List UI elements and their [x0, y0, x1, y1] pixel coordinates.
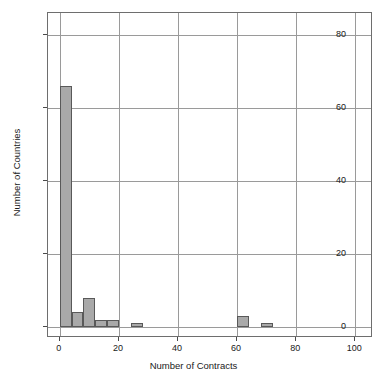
y-tick-label: 20	[336, 248, 346, 258]
gridline-vertical	[237, 13, 238, 336]
y-tick-mark	[43, 34, 47, 35]
histogram-bar	[237, 316, 249, 327]
histogram-bar	[60, 86, 72, 327]
x-tick-mark	[295, 337, 296, 341]
gridline-vertical	[119, 13, 120, 336]
x-tick-label: 40	[157, 343, 197, 353]
histogram-bar	[261, 323, 273, 327]
gridline-vertical	[296, 13, 297, 336]
y-tick-mark	[43, 326, 47, 327]
gridline-vertical	[355, 13, 356, 336]
x-tick-label: 100	[334, 343, 374, 353]
x-tick-mark	[59, 337, 60, 341]
x-tick-label: 60	[216, 343, 256, 353]
gridline-horizontal	[48, 108, 371, 109]
histogram-bar	[95, 320, 107, 327]
histogram-bar	[131, 323, 143, 327]
y-tick-mark	[43, 107, 47, 108]
gridline-horizontal	[48, 254, 371, 255]
y-tick-label: 40	[336, 175, 346, 185]
gridline-vertical	[178, 13, 179, 336]
x-axis-title: Number of Contracts	[0, 360, 387, 371]
x-tick-mark	[177, 337, 178, 341]
histogram-bar	[72, 312, 84, 327]
x-tick-label: 0	[39, 343, 79, 353]
gridline-horizontal	[48, 327, 371, 328]
y-tick-mark	[43, 253, 47, 254]
y-tick-mark	[43, 180, 47, 181]
x-tick-mark	[236, 337, 237, 341]
x-tick-mark	[118, 337, 119, 341]
plot-frame	[47, 12, 372, 337]
x-tick-label: 20	[98, 343, 138, 353]
x-tick-mark	[354, 337, 355, 341]
gridline-horizontal	[48, 181, 371, 182]
histogram-figure: 020406080100020406080 Number of Contract…	[0, 0, 387, 383]
histogram-bar	[107, 320, 119, 327]
gridline-horizontal	[48, 35, 371, 36]
y-tick-label: 80	[336, 29, 346, 39]
histogram-bar	[83, 298, 95, 327]
x-tick-label: 80	[275, 343, 315, 353]
y-tick-label: 0	[341, 321, 346, 331]
y-axis-title: Number of Countries	[11, 83, 22, 263]
y-tick-label: 60	[336, 102, 346, 112]
plot-area	[48, 13, 371, 336]
